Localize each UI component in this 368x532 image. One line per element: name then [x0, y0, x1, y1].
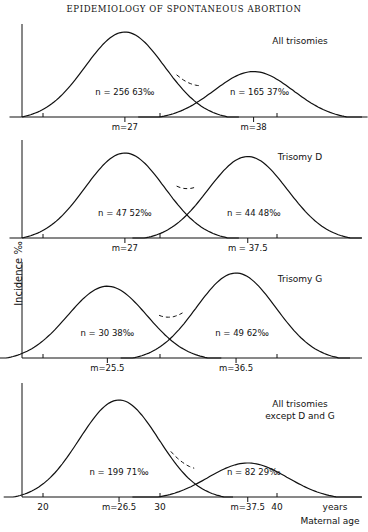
mean-label: m=27: [112, 122, 138, 132]
mean-label: m=27: [112, 243, 138, 253]
mean-label: m = 37.5: [228, 243, 268, 253]
group-n-label: n = 256 63‰: [95, 87, 154, 97]
panel-title: Trisomy G: [277, 274, 323, 284]
distribution-curve: [132, 157, 361, 239]
panel-title: except D and G: [265, 411, 335, 421]
distribution-curve: [0, 286, 221, 358]
mean-label: m=38: [240, 122, 266, 132]
sum-dashed-curve: [177, 75, 200, 86]
sum-dashed-curve: [159, 313, 182, 317]
panel-title: Trisomy D: [277, 152, 323, 162]
distribution-curve: [10, 153, 239, 238]
x-tick-label: 30: [154, 502, 166, 512]
mean-label: m=37.5: [231, 502, 265, 512]
panel-title: All trisomies: [272, 399, 328, 409]
x-tick-label: 40: [271, 502, 283, 512]
distribution-curve: [121, 273, 350, 358]
group-n-label: n = 82 29‰: [227, 467, 281, 477]
chart-canvas: m=27m=38n = 256 63‰n = 165 37‰All trisom…: [0, 0, 368, 532]
mean-label: m=25.5: [90, 363, 124, 373]
group-n-label: n = 165 37‰: [230, 87, 289, 97]
x-axis-unit: years: [323, 502, 348, 512]
panel-title: All trisomies: [272, 36, 328, 46]
group-n-label: n = 30 38‰: [81, 328, 135, 338]
mean-label: m=36.5: [219, 363, 253, 373]
sum-dashed-curve: [171, 451, 194, 468]
x-tick-label: 20: [37, 502, 49, 512]
mean-label: m=26.5: [102, 502, 136, 512]
distribution-curve: [10, 32, 239, 117]
group-n-label: n = 199 71‰: [90, 467, 149, 477]
sum-dashed-curve: [177, 186, 196, 189]
group-n-label: n = 49 62‰: [215, 328, 269, 338]
group-n-label: n = 47 52‰: [98, 208, 152, 218]
x-axis-title: Maternal age: [300, 516, 360, 526]
group-n-label: n = 44 48‰: [227, 208, 281, 218]
